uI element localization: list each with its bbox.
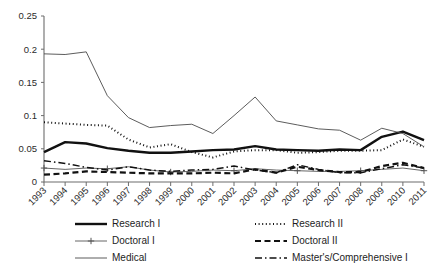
series-line-1 bbox=[44, 122, 424, 157]
legend-item-2: Doctoral I bbox=[75, 235, 155, 246]
data-series-group bbox=[41, 52, 427, 175]
x-tick-label: 2009 bbox=[363, 185, 386, 208]
x-axis-tick-labels: 1993199419951996199719981999200020012002… bbox=[26, 185, 429, 208]
x-tick-label: 2011 bbox=[406, 185, 428, 207]
legend-item-1: Research II bbox=[255, 218, 343, 229]
series-line-0 bbox=[44, 132, 424, 153]
legend-label-1: Research II bbox=[292, 218, 343, 229]
axis-lines bbox=[44, 16, 424, 182]
x-tick-label: 1996 bbox=[89, 185, 112, 208]
legend-label-2: Doctoral I bbox=[112, 235, 155, 246]
chart-legend: Research IResearch IIDoctoral IDoctoral … bbox=[75, 218, 408, 263]
legend-label-0: Research I bbox=[112, 218, 160, 229]
legend-item-5: Master's/Comprehensive I bbox=[255, 252, 408, 263]
series-line-4 bbox=[44, 52, 424, 147]
x-tick-label: 2005 bbox=[279, 185, 302, 208]
legend-item-4: Medical bbox=[75, 252, 146, 263]
legend-item-0: Research I bbox=[75, 218, 160, 229]
chart-screenshot: 00.050.10.150.20.25 19931994199519961997… bbox=[0, 0, 444, 272]
x-tick-label: 2001 bbox=[195, 185, 218, 208]
y-axis-tick-labels: 00.050.10.150.20.25 bbox=[19, 10, 38, 187]
x-tick-label: 1997 bbox=[110, 185, 133, 208]
y-tick-label: 0.2 bbox=[24, 44, 37, 55]
legend-label-5: Master's/Comprehensive I bbox=[292, 252, 408, 263]
x-tick-label: 1999 bbox=[152, 185, 175, 208]
x-tick-label: 1998 bbox=[131, 185, 154, 208]
y-tick-label: 0.15 bbox=[19, 77, 38, 88]
x-tick-label: 2007 bbox=[321, 185, 344, 208]
plot-area: 00.050.10.150.20.25 19931994199519961997… bbox=[19, 10, 429, 207]
x-tick-label: 2003 bbox=[237, 185, 260, 208]
x-tick-label: 2010 bbox=[385, 185, 408, 208]
x-tick-label: 1994 bbox=[47, 185, 70, 208]
x-tick-label: 2006 bbox=[300, 185, 323, 208]
y-tick-label: 0 bbox=[32, 176, 37, 187]
legend-label-3: Doctoral II bbox=[292, 235, 338, 246]
line-chart: 00.050.10.150.20.25 19931994199519961997… bbox=[0, 0, 444, 272]
legend-item-3: Doctoral II bbox=[255, 235, 338, 246]
legend-swatch-marker-2 bbox=[88, 238, 94, 244]
chart-axes bbox=[41, 16, 424, 186]
series-marker-plus bbox=[41, 165, 47, 171]
x-tick-label: 2004 bbox=[258, 185, 281, 208]
y-tick-label: 0.05 bbox=[19, 143, 38, 154]
x-tick-label: 1995 bbox=[68, 185, 91, 208]
x-tick-label: 2008 bbox=[342, 185, 365, 208]
y-tick-label: 0.1 bbox=[24, 110, 37, 121]
x-tick-label: 2002 bbox=[216, 185, 239, 208]
x-tick-label: 1993 bbox=[26, 185, 49, 208]
x-tick-label: 2000 bbox=[173, 185, 196, 208]
y-tick-label: 0.25 bbox=[19, 10, 38, 21]
legend-label-4: Medical bbox=[112, 252, 146, 263]
